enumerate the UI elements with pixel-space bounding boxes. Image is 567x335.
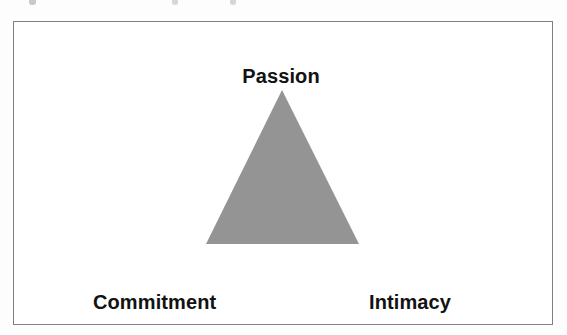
figure-frame-border: Passion Commitment Intimacy [13, 21, 553, 325]
figure-root: Passion Commitment Intimacy [0, 0, 567, 335]
vertex-label-commitment: Commitment [93, 292, 216, 312]
scan-artifact [230, 0, 236, 5]
triangle-polygon [206, 90, 359, 244]
scan-artifact [172, 0, 178, 5]
vertex-label-intimacy: Intimacy [369, 292, 451, 312]
scan-artifact [29, 0, 36, 5]
vertex-label-passion: Passion [14, 66, 552, 86]
triangle-shape [206, 90, 359, 244]
